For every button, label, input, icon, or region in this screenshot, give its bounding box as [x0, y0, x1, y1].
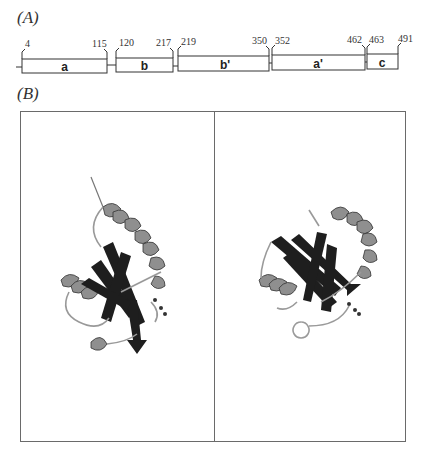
- domain-b-start: 120: [119, 37, 134, 48]
- domain-b-end: 217: [156, 37, 171, 48]
- domain-a: a 4 115: [22, 38, 107, 74]
- domain-a-prime: a' 352 462: [272, 34, 365, 71]
- domain-b-prime-label: b': [220, 58, 230, 72]
- stereo-divider: [214, 112, 215, 441]
- domain-c-label: c: [379, 56, 386, 70]
- stereo-structure-frame: [20, 111, 406, 442]
- domain-b-prime: b' 219 350: [178, 35, 269, 72]
- domain-c: c 463 491: [367, 33, 413, 70]
- domain-a-label: a: [61, 60, 68, 74]
- ribbon-structure-left: [51, 172, 201, 372]
- domain-map: a 4 115 b 120 217 b' 219 350 a' 352 462 …: [0, 0, 421, 90]
- domain-c-start: 463: [369, 34, 384, 45]
- domain-b-prime-end: 350: [252, 35, 267, 46]
- domain-b-prime-start: 219: [181, 36, 196, 47]
- domain-a-end: 115: [92, 38, 107, 49]
- domain-a-prime-end: 462: [347, 34, 362, 45]
- domain-a-prime-label: a': [313, 57, 323, 71]
- domain-b-label: b: [141, 59, 148, 73]
- domain-a-prime-start: 352: [275, 35, 290, 46]
- domain-a-start: 4: [25, 38, 30, 49]
- domain-b: b 120 217: [116, 37, 173, 73]
- domain-c-end: 491: [398, 33, 413, 44]
- panel-b-label: (B): [17, 84, 39, 104]
- ribbon-structure-right: [251, 192, 401, 362]
